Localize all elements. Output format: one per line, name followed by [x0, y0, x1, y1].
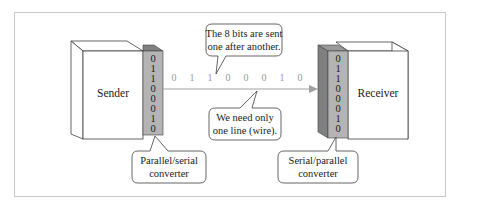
- callout-parallel-serial-line-1: Parallel/serial: [140, 155, 198, 166]
- serial-bit-4: 0: [244, 72, 249, 83]
- sender-label: Sender: [97, 87, 129, 99]
- serial-bit-7: 0: [298, 72, 303, 83]
- diagram-canvas: Sender 0 1 1 0 0 0 1 0 0 1 1 0 0 0 1 0 T…: [0, 0, 478, 206]
- receiver-bit-7: 0: [335, 123, 340, 134]
- receiver-label: Receiver: [358, 87, 399, 99]
- serial-bit-6: 1: [280, 72, 285, 83]
- sender-device: Sender: [71, 41, 143, 139]
- serial-bit-3: 0: [226, 72, 231, 83]
- callout-serial-parallel-line-1: Serial/parallel: [289, 155, 348, 166]
- callout-one-line-line-1: We need only: [216, 112, 274, 123]
- callout-parallel-serial-line-2: converter: [149, 168, 189, 179]
- sender-converter-bits: 0 1 1 0 0 0 1 0: [150, 53, 155, 134]
- sender-bit-7: 0: [150, 123, 155, 134]
- serial-bit-2: 1: [208, 72, 213, 83]
- callout-serial-parallel-line-2: converter: [298, 168, 338, 179]
- sender-converter: 0 1 1 0 0 0 1 0: [143, 45, 163, 135]
- receiver-converter: 0 1 1 0 0 0 1 0: [318, 45, 348, 138]
- callout-one-line-line-2: one line (wire).: [213, 125, 277, 137]
- serial-bit-5: 0: [262, 72, 267, 83]
- serial-bit-1: 1: [190, 72, 195, 83]
- callout-bits-sent-line-1: The 8 bits are sent: [206, 28, 283, 39]
- receiver-converter-bits: 0 1 1 0 0 0 1 0: [335, 53, 340, 134]
- serial-bit-0: 0: [172, 72, 177, 83]
- callout-bits-sent-line-2: one after another.: [207, 41, 280, 52]
